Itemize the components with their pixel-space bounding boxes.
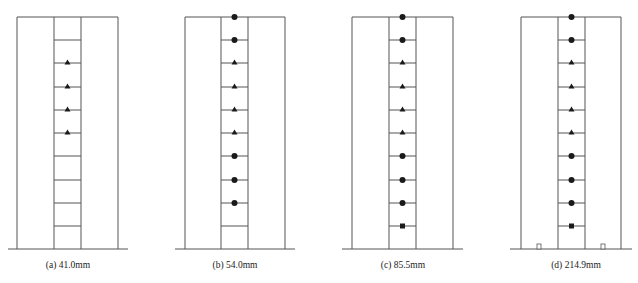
circle-marker-icon (232, 200, 238, 206)
circle-marker-icon (400, 14, 406, 20)
circle-marker-icon (232, 153, 238, 159)
panel-d (510, 14, 632, 249)
triangle-marker-icon (569, 60, 575, 65)
square-marker-icon (569, 224, 574, 229)
triangle-marker-icon (65, 107, 71, 112)
triangle-marker-icon (232, 60, 238, 65)
triangle-marker-icon (65, 60, 71, 65)
diagram-canvas (0, 0, 638, 283)
triangle-marker-icon (400, 84, 406, 89)
circle-marker-icon (400, 200, 406, 206)
triangle-marker-icon (569, 84, 575, 89)
circle-marker-icon (232, 37, 238, 43)
triangle-marker-icon (65, 84, 71, 89)
open-square-marker-icon (601, 244, 605, 249)
circle-marker-icon (400, 153, 406, 159)
triangle-marker-icon (232, 84, 238, 89)
triangle-marker-icon (400, 107, 406, 112)
circle-marker-icon (569, 200, 575, 206)
circle-marker-icon (569, 153, 575, 159)
panel-c-caption: (c) 85.5mm (343, 260, 463, 270)
triangle-marker-icon (569, 130, 575, 135)
triangle-marker-icon (232, 130, 238, 135)
triangle-marker-icon (400, 60, 406, 65)
panel-c (342, 14, 463, 249)
circle-marker-icon (232, 14, 238, 20)
panel-d-caption: (d) 214.9mm (516, 260, 636, 270)
circle-marker-icon (569, 37, 575, 43)
circle-marker-icon (232, 177, 238, 183)
panel-a (8, 17, 128, 249)
circle-marker-icon (569, 177, 575, 183)
circle-marker-icon (569, 14, 575, 20)
open-square-marker-icon (537, 244, 541, 249)
panel-b-caption: (b) 54.0mm (175, 260, 295, 270)
triangle-marker-icon (569, 107, 575, 112)
triangle-marker-icon (232, 107, 238, 112)
triangle-marker-icon (65, 130, 71, 135)
circle-marker-icon (400, 37, 406, 43)
square-marker-icon (400, 224, 405, 229)
triangle-marker-icon (400, 130, 406, 135)
circle-marker-icon (400, 177, 406, 183)
panel-a-caption: (a) 41.0mm (8, 260, 128, 270)
panel-b (175, 14, 295, 249)
